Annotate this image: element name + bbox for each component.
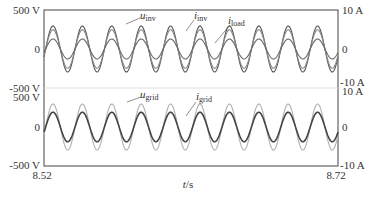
label-u-grid: ugrid [140, 88, 158, 102]
series-u-grid [44, 104, 338, 150]
x-end-tick: 8.72 [326, 169, 345, 181]
top-left-mid-tick: 0 [35, 43, 41, 55]
label-u-inv: uinv [140, 9, 156, 23]
top-right-top-tick: 10 A [342, 4, 363, 16]
top-left-top-tick: 500 V [13, 4, 40, 16]
bot-right-mid-tick: 0 [342, 121, 348, 133]
label-i-load: iload [228, 14, 245, 28]
label-i-inv: iinv [194, 9, 207, 23]
x-start-tick: 8.52 [32, 169, 51, 181]
x-axis-label: t/s [183, 178, 193, 190]
label-i-grid: igrid [196, 90, 212, 104]
bot-left-top-tick: 500 V [13, 91, 40, 103]
waveform-chart: 500 V 0 -500 V 500 V 0 -500 V 10 A 0 -10… [0, 0, 378, 197]
bot-left-mid-tick: 0 [35, 121, 41, 133]
top-right-mid-tick: 0 [342, 43, 348, 55]
bot-right-top-tick: 10 A [342, 85, 363, 97]
series-i-inv [44, 30, 338, 68]
series-u-inv [44, 26, 338, 72]
